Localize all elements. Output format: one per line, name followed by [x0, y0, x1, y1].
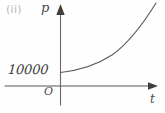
origin-label: O: [44, 86, 53, 97]
p-axis: [56, 4, 64, 105]
exponential-curve: [61, 3, 157, 73]
p-axis-arrowhead: [56, 4, 64, 15]
figure-container: (ii) p t 10000 O: [0, 0, 165, 113]
part-label: (ii): [6, 4, 22, 15]
t-axis-arrowhead: [148, 82, 158, 90]
y-intercept-label: 10000: [8, 63, 49, 76]
p-axis-label: p: [41, 1, 49, 14]
t-axis: [5, 82, 158, 90]
graph-canvas: [0, 0, 165, 113]
t-axis-label: t: [150, 93, 155, 105]
